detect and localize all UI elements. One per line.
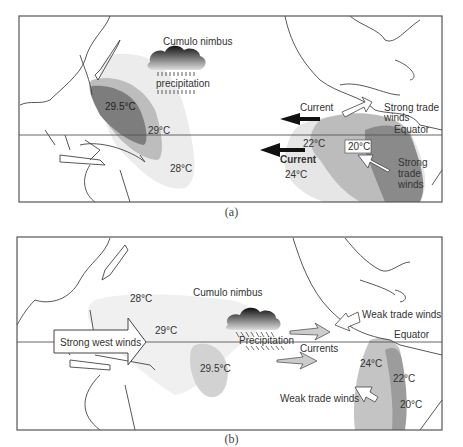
label-22: 22°C <box>303 138 325 149</box>
panel-b-map: 28°C Cumulo nimbus Strong west winds 29°… <box>0 215 463 445</box>
current-arrow-upper-icon-b <box>290 323 330 340</box>
label-20: 20°C <box>348 141 370 152</box>
label-currents: Currents <box>300 343 338 354</box>
label-weak-trade-1: Weak trade winds <box>362 309 441 320</box>
label-strong-trade-b: winds <box>383 112 410 123</box>
label-weak-trade-2: Weak trade winds <box>280 393 359 404</box>
label-29-b: 29°C <box>155 325 177 336</box>
panel-a-map: Cumulo nimbus precipitation 29.5°C 29°C … <box>0 0 463 215</box>
label-29: 29°C <box>148 125 170 136</box>
label-24-b: 24°C <box>360 358 382 369</box>
label-28-b: 28°C <box>130 293 152 304</box>
label-strong-b-3: winds <box>397 179 424 190</box>
label-cloud: Cumulo nimbus <box>163 36 232 47</box>
label-29-5: 29.5°C <box>105 101 136 112</box>
label-cloud-b: Cumulo nimbus <box>193 287 262 298</box>
label-24: 24°C <box>285 169 307 180</box>
label-strong-b-2: trade <box>398 168 421 179</box>
label-29-5-b: 29.5°C <box>200 363 231 374</box>
label-equator: Equator <box>394 124 430 135</box>
label-current-top: Current <box>300 102 334 113</box>
label-28: 28°C <box>170 163 192 174</box>
label-equator-b: Equator <box>394 329 430 340</box>
label-current-bottom: Current <box>280 154 317 165</box>
label-20-b: 20°C <box>400 399 422 410</box>
label-precip-b: Precipitation <box>239 335 294 346</box>
label-22-b: 22°C <box>393 373 415 384</box>
current-arrow-lower-icon-b <box>277 352 317 369</box>
label-strong-b-1: Strong <box>398 157 427 168</box>
label-precip: precipitation <box>156 78 210 89</box>
weak-trade-arrow-upper-icon <box>335 312 360 331</box>
caption-b: (b) <box>0 432 463 447</box>
label-west-winds: Strong west winds <box>60 337 141 348</box>
